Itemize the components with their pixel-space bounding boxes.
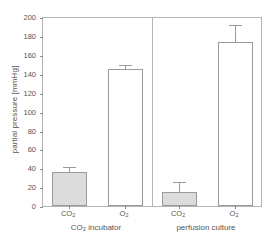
group-label-co2-incubator: CO2 incubator [71,223,121,232]
y-tick-label: 120 [23,90,36,98]
y-tick-label: 40 [28,166,36,174]
x-tick-label-2: O2 [120,210,129,218]
error-bar-line-2 [125,65,126,69]
error-bar-cap-4 [229,25,242,26]
y-tick-label: 140 [23,71,36,79]
y-tick-label: 100 [23,109,36,117]
error-bar-cap-1 [63,167,76,168]
y-tick: 120 [40,94,43,95]
error-bar-line-4 [235,26,236,42]
bar-perfusion-culture-o2 [218,42,253,206]
error-bar-line-1 [69,168,70,172]
y-axis-title: partial pressure [mmHg] [10,35,19,185]
y-axis-title-text: partial pressure [mmHg] [10,66,19,154]
y-tick-label: 80 [28,128,36,136]
y-tick: 180 [40,37,43,38]
y-tick: 200 [40,18,43,19]
y-tick: 100 [40,113,43,114]
y-tick: 20 [40,188,43,189]
group-label-perfusion-culture: perfusion culture [176,223,235,232]
y-tick-label: 180 [23,33,36,41]
x-tick-label-3: CO2 [171,210,185,218]
x-tick-label-1: CO2 [61,210,75,218]
y-tick: 40 [40,169,43,170]
y-tick-label: 160 [23,52,36,60]
bar-co2-incubator-o2 [108,69,143,206]
y-tick: 80 [40,132,43,133]
y-tick-label: 20 [28,184,36,192]
y-tick: 60 [40,150,43,151]
x-tick-label-4: O2 [230,210,239,218]
bar-co2-incubator-co2 [52,172,87,206]
error-bar-line-3 [179,183,180,192]
bar-perfusion-culture-co2 [162,192,197,206]
y-tick-label: 0 [32,203,36,211]
error-bar-cap-2 [119,65,132,66]
y-tick: 0 [40,207,43,208]
y-tick: 160 [40,56,43,57]
chart-figure: partial pressure [mmHg] 0 20 40 60 80 10… [0,0,269,238]
group-divider [152,18,153,206]
y-tick: 140 [40,75,43,76]
y-tick-label: 200 [23,14,36,22]
plot-area: 0 20 40 60 80 100 120 140 160 180 200 [42,17,262,207]
error-bar-cap-3 [173,182,186,183]
y-tick-label: 60 [28,147,36,155]
